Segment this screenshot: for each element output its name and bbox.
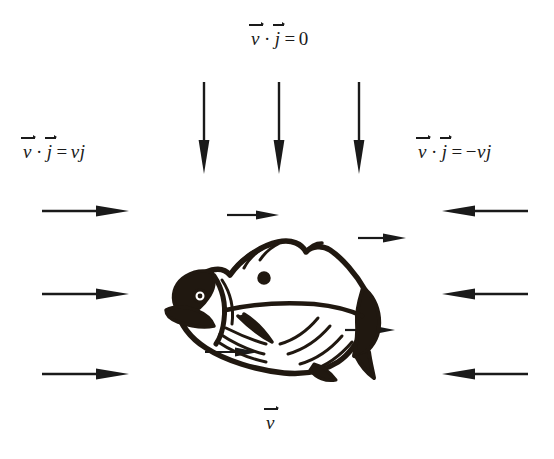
flux-value-right: vj [477, 141, 492, 162]
down-arrow-2 [272, 82, 286, 174]
flux-value-left: vj [71, 141, 86, 162]
right-arrow-2 [42, 287, 129, 301]
vector-v-symbol: v [265, 412, 276, 434]
right-arrow-1 [42, 204, 129, 218]
down-arrow-1 [197, 82, 211, 174]
equals-sign: = [449, 141, 466, 162]
vector-v-symbol: v [250, 28, 261, 50]
left-arrow-3 [442, 367, 528, 381]
dot-operator: · [261, 28, 274, 49]
dot-operator: · [428, 141, 441, 162]
down-arrow-3 [352, 82, 366, 174]
vector-j-symbol: j [46, 141, 54, 163]
minus-sign: − [466, 141, 477, 162]
left-arrow-2 [442, 287, 528, 301]
left-arrow-1 [442, 204, 528, 218]
flux-value-top: 0 [299, 28, 309, 49]
flux-label-left: v·j=vj [22, 141, 85, 163]
vector-j-symbol: j [274, 28, 282, 50]
dot-operator: · [33, 141, 46, 162]
fish-drawing [160, 230, 385, 385]
equals-sign: = [54, 141, 71, 162]
vector-j-symbol: j [441, 141, 449, 163]
flux-label-top: v·j=0 [250, 28, 309, 50]
vector-v-symbol: v [22, 141, 33, 163]
vector-v-symbol: v [417, 141, 428, 163]
flux-label-right: v·j=−vj [417, 141, 492, 163]
right-arrow-3 [42, 367, 129, 381]
fish-arrow-top-left [227, 209, 279, 221]
flux-diagram-figure: v·j=0 v·j=vj v·j=−vj v [0, 0, 554, 459]
velocity-vector-label: v [265, 412, 276, 434]
equals-sign: = [282, 28, 299, 49]
